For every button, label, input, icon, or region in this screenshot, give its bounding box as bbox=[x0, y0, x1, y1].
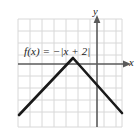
y-axis-label: y bbox=[93, 6, 98, 17]
x-axis-label: x bbox=[129, 57, 134, 68]
function-curve bbox=[19, 58, 122, 115]
graph-figure: f(x) = −|x + 2| y x bbox=[0, 0, 140, 135]
grid-lines bbox=[18, 19, 122, 127]
y-axis bbox=[94, 15, 101, 127]
coordinate-plot bbox=[0, 0, 140, 135]
equation-label: f(x) = −|x + 2| bbox=[24, 45, 90, 58]
